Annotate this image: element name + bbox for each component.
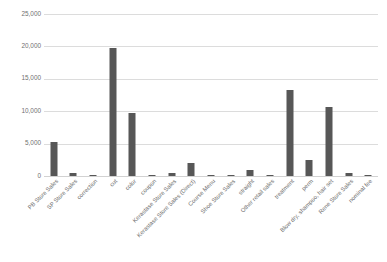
bar[interactable] [109, 48, 116, 176]
y-axis: 05,00010,00015,00020,00025,000 [0, 14, 41, 176]
bar[interactable] [129, 113, 136, 176]
bar-slot [103, 14, 123, 176]
bar-chart: 05,00010,00015,00020,00025,000 PB Store … [0, 0, 387, 262]
bar[interactable] [50, 142, 57, 176]
bar-slot [162, 14, 182, 176]
plot-area [44, 14, 378, 176]
x-axis-labels: PB Store SalesSP Store Salescorrectioncu… [44, 178, 378, 262]
y-tick-label: 25,000 [1, 11, 41, 17]
y-tick-label: 0 [1, 173, 41, 179]
y-tick-label: 15,000 [1, 75, 41, 81]
bar-slot [123, 14, 143, 176]
bar[interactable] [325, 107, 332, 176]
y-tick-label: 10,000 [1, 108, 41, 114]
bar-slot [44, 14, 64, 176]
bar-slot [142, 14, 162, 176]
bar-slot [319, 14, 339, 176]
y-tick-label: 20,000 [1, 43, 41, 49]
y-tick-label: 5,000 [1, 140, 41, 146]
bars-layer [44, 14, 378, 176]
